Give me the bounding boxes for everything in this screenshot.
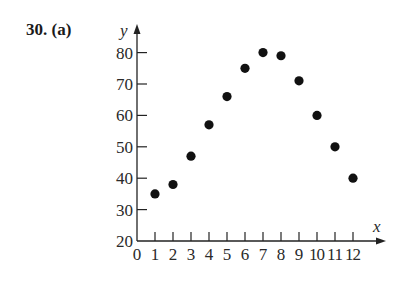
x-tick-label: 5	[223, 245, 232, 264]
x-tick-label: 9	[295, 245, 304, 264]
x-axis-ticks: 0123456789101112	[133, 232, 361, 264]
y-tick-label: 80	[116, 44, 133, 63]
x-tick-label: 2	[169, 245, 178, 264]
y-tick-label: 20	[116, 232, 133, 251]
x-tick-label: 3	[187, 245, 196, 264]
x-tick-label: 7	[259, 245, 268, 264]
x-tick-label: 8	[277, 245, 286, 264]
x-tick-label: 4	[205, 245, 214, 264]
y-tick-label: 70	[116, 75, 133, 94]
data-point	[330, 142, 339, 151]
y-tick-label: 50	[116, 138, 133, 157]
data-point	[276, 51, 285, 60]
x-tick-label: 1	[151, 245, 160, 264]
x-tick-label: 12	[345, 245, 361, 264]
data-points	[150, 48, 357, 199]
axes: xy	[118, 21, 386, 245]
data-point	[240, 64, 249, 73]
y-tick-label: 30	[116, 201, 133, 220]
y-axis-ticks: 20304050607080	[116, 44, 147, 251]
data-point	[312, 111, 321, 120]
data-point	[186, 152, 195, 161]
data-point	[348, 174, 357, 183]
x-tick-label: 6	[241, 245, 250, 264]
data-point	[222, 92, 231, 101]
y-axis-title: y	[118, 21, 128, 40]
x-axis-arrow-icon	[376, 238, 386, 245]
data-point	[204, 120, 213, 129]
x-tick-label: 0	[133, 245, 142, 264]
x-tick-label: 11	[327, 245, 343, 264]
y-tick-label: 40	[116, 169, 133, 188]
data-point	[258, 48, 267, 57]
scatter-chart: xy 0123456789101112 20304050607080	[0, 0, 403, 287]
x-axis-title: x	[372, 217, 381, 236]
y-tick-label: 60	[116, 106, 133, 125]
data-point	[294, 76, 303, 85]
y-axis-arrow-icon	[134, 24, 141, 34]
x-tick-label: 10	[309, 245, 325, 264]
data-point	[168, 180, 177, 189]
data-point	[150, 189, 159, 198]
